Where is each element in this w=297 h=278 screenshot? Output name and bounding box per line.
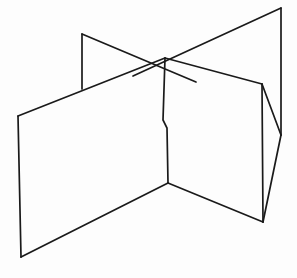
figure-canvas: Intersecting Planes Line Drawing Ambiguo… (0, 0, 297, 278)
front-right-panel-right-edge (262, 84, 263, 222)
canvas-background (0, 0, 297, 278)
line-drawing-svg (0, 0, 297, 278)
